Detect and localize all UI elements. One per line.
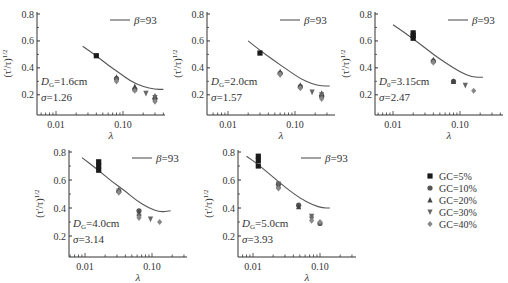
data-point-gc-30- (310, 90, 315, 96)
legend-item-label: GC=30% (439, 207, 477, 218)
data-point-gc-40- (471, 88, 476, 94)
data-point-gc-5- (256, 154, 261, 159)
x-axis-label: λ (135, 271, 141, 283)
sigma-annotation: σ=3.14 (73, 233, 104, 245)
legend-item-label: GC=10% (439, 183, 477, 194)
x-tick-label: 0.01 (76, 261, 94, 272)
legend-marker-square-icon (427, 173, 432, 178)
y-tick-label: 0.2 (22, 89, 35, 100)
y-tick-label: 0.2 (192, 89, 205, 100)
data-point-gc-40- (276, 185, 281, 191)
data-point-gc-40- (309, 218, 314, 224)
y-axis-label: (τ'/τ)1/2 (1, 49, 14, 78)
y-axis-label: (τ'/τ)1/2 (202, 189, 215, 218)
sigma-annotation: σ=2.47 (379, 91, 410, 103)
legend-line-label: β=93 (324, 152, 348, 164)
legend-marker-circle-icon (427, 185, 432, 190)
data-point-gc-5- (256, 163, 261, 168)
y-tick-label: 0.2 (223, 231, 236, 242)
y-tick-label: 0.8 (54, 147, 67, 158)
x-tick-label: 0.10 (311, 261, 329, 272)
y-tick-label: 0.2 (54, 231, 67, 242)
data-point-gc-30- (148, 217, 153, 223)
x-tick-label: 0.10 (451, 119, 469, 130)
sigma-annotation: σ=3.93 (242, 233, 273, 245)
y-tick-label: 0.4 (223, 203, 236, 214)
x-axis-label: λ (108, 129, 114, 141)
model-curve-beta-93 (83, 46, 164, 89)
legend-marker-triangle-down-icon (427, 209, 432, 215)
y-tick-label: 0.8 (360, 9, 373, 20)
chart-panel-4: 0.20.40.60.80.010.10λ(τ'/τ)1/2β=93DG=4.0… (33, 147, 187, 283)
x-axis-label: λ (304, 271, 310, 283)
series-legend: GC=5%GC=10%GC=20%GC=30%GC=40% (427, 171, 476, 230)
y-tick-label: 0.2 (360, 89, 373, 100)
x-tick-label: 0.01 (219, 119, 237, 130)
legend-line-label: β=93 (133, 14, 157, 26)
y-axis-label: (τ'/τ)1/2 (33, 189, 46, 218)
legend-line-label: β=93 (303, 14, 327, 26)
x-tick-label: 0.01 (47, 119, 65, 130)
y-tick-label: 0.6 (223, 175, 236, 186)
y-tick-label: 0.6 (54, 175, 67, 186)
x-tick-label: 0.01 (244, 261, 262, 272)
data-point-gc-40- (157, 219, 162, 225)
x-tick-label: 0.10 (114, 119, 132, 130)
grain-size-annotation: DG=4.0cm (72, 217, 120, 231)
legend-item-label: GC=20% (439, 195, 477, 206)
y-tick-label: 0.6 (22, 35, 35, 46)
x-tick-label: 0.10 (286, 119, 304, 130)
chart-panel-5: 0.20.40.60.80.010.10λ(τ'/τ)1/2β=93DG=5.0… (202, 147, 356, 283)
chart-panel-1: 0.20.40.60.80.010.10λ(τ'/τ)1/2β=93DG=1.6… (1, 9, 165, 142)
grain-size-annotation: DG=5.0cm (241, 217, 289, 231)
data-point-gc-5- (411, 30, 416, 35)
grain-size-annotation: DG=2.0cm (210, 75, 258, 89)
data-point-gc-30- (463, 83, 468, 89)
data-point-gc-5- (257, 50, 262, 55)
model-curve-beta-93 (82, 158, 171, 212)
data-point-gc-5- (96, 159, 101, 164)
y-tick-label: 0.8 (192, 9, 205, 20)
data-point-gc-30- (143, 91, 148, 97)
x-tick-label: 0.10 (143, 261, 161, 272)
figure: 0.20.40.60.80.010.10λ(τ'/τ)1/2β=93DG=1.6… (0, 0, 508, 283)
y-tick-label: 0.8 (22, 9, 35, 20)
y-tick-label: 0.4 (54, 203, 67, 214)
y-tick-label: 0.6 (192, 35, 205, 46)
sigma-annotation: σ=1.26 (41, 91, 72, 103)
x-axis-label: λ (278, 129, 284, 141)
chart-panel-3: 0.20.40.60.80.010.10λ(τ'/τ)1/2β=93D0=3.1… (339, 9, 503, 142)
legend-marker-diamond-icon (427, 221, 432, 227)
y-tick-label: 0.6 (360, 35, 373, 46)
sigma-annotation: σ=1.57 (211, 91, 242, 103)
chart-panel-2: 0.20.40.60.80.010.10λ(τ'/τ)1/2β=93DG=2.0… (171, 9, 335, 142)
y-tick-label: 0.4 (192, 62, 205, 73)
data-point-gc-5- (94, 53, 99, 58)
grain-size-annotation: DG=1.6cm (40, 75, 88, 89)
y-tick-label: 0.4 (22, 62, 35, 73)
legend-item-label: GC=5% (439, 171, 472, 182)
legend-line-label: β=93 (155, 152, 179, 164)
x-tick-label: 0.01 (384, 119, 402, 130)
y-tick-label: 0.8 (223, 147, 236, 158)
grain-size-annotation: D0=3.15cm (378, 75, 430, 89)
model-curve-beta-93 (248, 41, 330, 86)
model-curve-beta-93 (393, 25, 483, 78)
x-axis-label: λ (446, 129, 452, 141)
legend-marker-triangle-up-icon (427, 197, 432, 203)
y-axis-label: (τ'/τ)1/2 (339, 49, 352, 78)
legend-line-label: β=93 (471, 14, 495, 26)
legend-item-label: GC=40% (439, 219, 477, 230)
y-axis-label: (τ'/τ)1/2 (171, 49, 184, 78)
y-tick-label: 0.4 (360, 62, 373, 73)
